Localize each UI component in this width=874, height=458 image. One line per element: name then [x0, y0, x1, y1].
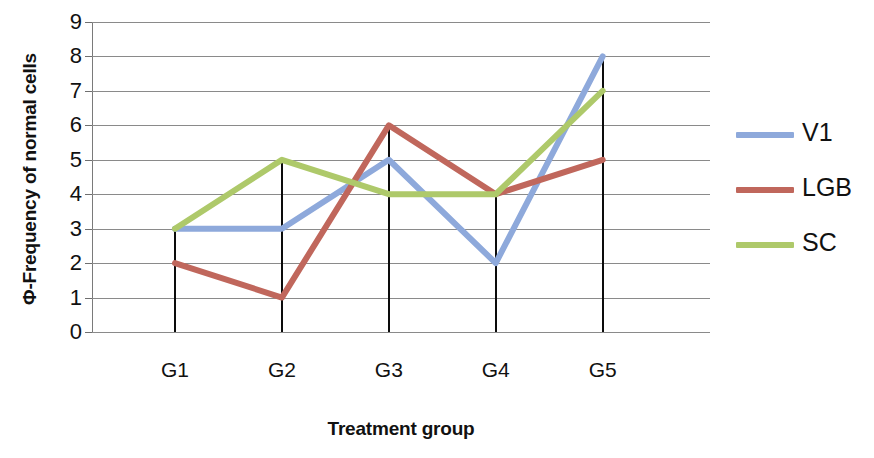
y-axis-tick-label: 8 — [48, 45, 82, 67]
y-axis-tick-label: 1 — [48, 287, 82, 309]
legend-label: LGB — [802, 173, 852, 202]
x-axis-title: Treatment group — [92, 418, 710, 440]
x-axis-tick-labels: G1G2G3G4G5 — [92, 358, 710, 388]
x-axis-tick-label: G5 — [563, 358, 643, 382]
x-axis-tick-label: G2 — [242, 358, 322, 382]
legend-swatch-v1 — [736, 132, 794, 138]
y-axis-tick — [85, 332, 92, 333]
y-axis-tick — [85, 56, 92, 57]
legend-label: V1 — [802, 118, 833, 147]
series-lines — [92, 22, 710, 332]
plot-area — [92, 22, 710, 332]
y-axis-tick-label: 5 — [48, 149, 82, 171]
y-axis-tick-label: 4 — [48, 183, 82, 205]
legend-item-sc[interactable]: SC — [736, 228, 874, 283]
x-axis-tick-label: G1 — [135, 358, 215, 382]
y-axis-tick — [85, 194, 92, 195]
legend-item-lgb[interactable]: LGB — [736, 173, 874, 228]
y-axis-tick-label: 0 — [48, 321, 82, 343]
gridline — [92, 332, 710, 333]
y-axis-tick-label: 9 — [48, 11, 82, 33]
y-axis-tick-label: 3 — [48, 218, 82, 240]
y-axis-tick — [85, 160, 92, 161]
y-axis-tick — [85, 125, 92, 126]
x-axis-tick-label: G4 — [456, 358, 536, 382]
y-axis-title: Φ-Frequency of normal cells — [19, 9, 41, 349]
x-axis-tick-label: G3 — [349, 358, 429, 382]
y-axis-tick-label: 7 — [48, 80, 82, 102]
y-axis-tick — [85, 263, 92, 264]
y-axis-tick — [85, 298, 92, 299]
legend-item-v1[interactable]: V1 — [736, 118, 874, 173]
legend: V1LGBSC — [736, 118, 874, 283]
legend-label: SC — [802, 228, 837, 257]
y-axis-tick — [85, 229, 92, 230]
y-axis-tick-labels: 0123456789 — [48, 0, 82, 360]
legend-swatch-sc — [736, 242, 794, 248]
y-axis-tick-label: 6 — [48, 114, 82, 136]
legend-swatch-lgb — [736, 187, 794, 193]
line-chart: Φ-Frequency of normal cells 0123456789 G… — [0, 0, 874, 458]
y-axis-tick — [85, 22, 92, 23]
y-axis-tick — [85, 91, 92, 92]
series-line-v1 — [175, 56, 603, 263]
y-axis-tick-label: 2 — [48, 252, 82, 274]
